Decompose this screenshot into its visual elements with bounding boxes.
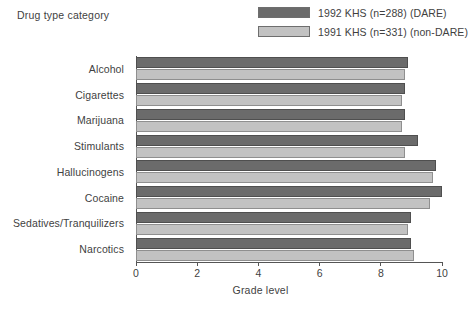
- category-label-sedatives: Sedatives/Tranquilizers: [0, 211, 130, 237]
- bar-group-container: [136, 56, 442, 262]
- category-label-cigarettes: Cigarettes: [0, 82, 130, 108]
- bar-dare: [136, 238, 411, 249]
- x-tick-label: 10: [436, 267, 448, 279]
- category-label-marijuana: Marijuana: [0, 108, 130, 134]
- category-label-narcotics: Narcotics: [0, 236, 130, 262]
- legend-item-dare: 1992 KHS (n=288) (DARE): [258, 5, 468, 20]
- bar-group: [136, 82, 442, 108]
- bar-group: [136, 211, 442, 237]
- bar-non-dare: [136, 147, 405, 158]
- x-tick-label: 6: [317, 267, 323, 279]
- bar-dare: [136, 57, 408, 68]
- y-axis-title: Drug type category: [17, 9, 109, 21]
- bar-group: [136, 108, 442, 134]
- legend-swatch-icon-dare: [258, 7, 310, 18]
- x-axis-title-text: Grade level: [181, 284, 289, 296]
- x-tick-mark: [442, 262, 443, 266]
- legend-label-dare: 1992 KHS (n=288) (DARE): [318, 7, 447, 19]
- x-tick-label: 8: [378, 267, 384, 279]
- bar-dare: [136, 186, 442, 197]
- x-tick-label: 2: [194, 267, 200, 279]
- bar-dare: [136, 135, 418, 146]
- plot-area: [136, 56, 442, 262]
- x-tick-mark: [197, 262, 198, 266]
- bar-chart-figure: Drug type category 1992 KHS (n=288) (DAR…: [0, 0, 469, 310]
- x-tick-mark: [380, 262, 381, 266]
- category-label-hallucinogens: Hallucinogens: [0, 159, 130, 185]
- category-label-stimulants: Stimulants: [0, 133, 130, 159]
- x-tick-mark: [136, 262, 137, 266]
- category-label-alcohol: Alcohol: [0, 56, 130, 82]
- bar-non-dare: [136, 95, 402, 106]
- category-label-cocaine: Cocaine: [0, 185, 130, 211]
- bar-dare: [136, 109, 405, 120]
- bar-non-dare: [136, 224, 408, 235]
- legend-label-non-dare: 1991 KHS (n=331) (non-DARE): [318, 26, 468, 38]
- bar-dare: [136, 83, 405, 94]
- bar-non-dare: [136, 69, 405, 80]
- bar-non-dare: [136, 198, 430, 209]
- bar-group: [136, 133, 442, 159]
- bar-group: [136, 185, 442, 211]
- bar-non-dare: [136, 250, 414, 261]
- category-axis-labels: Alcohol Cigarettes Marijuana Stimulants …: [0, 56, 130, 262]
- x-tick-label: 4: [255, 267, 261, 279]
- x-tick-mark: [319, 262, 320, 266]
- bar-non-dare: [136, 121, 402, 132]
- bar-group: [136, 56, 442, 82]
- bar-dare: [136, 212, 411, 223]
- x-tick-label: 0: [133, 267, 139, 279]
- x-axis-title: Grade level: [0, 284, 469, 296]
- bar-non-dare: [136, 172, 433, 183]
- legend-swatch-icon-non-dare: [258, 26, 310, 37]
- bar-group: [136, 236, 442, 262]
- x-axis-ticks: 0246810: [136, 262, 442, 267]
- bar-group: [136, 159, 442, 185]
- bar-dare: [136, 160, 436, 171]
- x-tick-mark: [258, 262, 259, 266]
- legend-item-non-dare: 1991 KHS (n=331) (non-DARE): [258, 24, 468, 39]
- chart-legend: 1992 KHS (n=288) (DARE) 1991 KHS (n=331)…: [258, 5, 468, 43]
